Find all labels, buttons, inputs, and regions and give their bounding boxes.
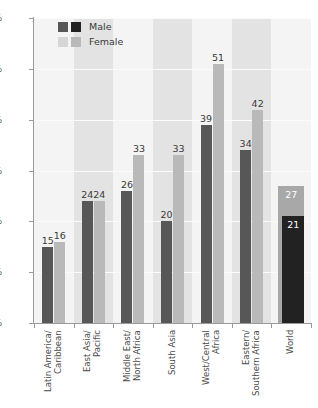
- female-bar: [213, 64, 224, 323]
- legend-label: Female: [89, 36, 123, 47]
- legend-swatch-secondary: [71, 37, 81, 47]
- y-axis-tick-mark: [29, 120, 33, 121]
- y-axis-tick-label: 10%: [0, 267, 2, 277]
- y-axis-tick-label: 50%: [0, 64, 2, 74]
- category-label-line: Southern Africa: [251, 330, 261, 404]
- y-axis-tick-mark: [29, 272, 33, 273]
- x-axis-category-label: South Asia: [168, 330, 178, 404]
- y-axis-tick-label: 20%: [0, 216, 2, 226]
- x-axis-tick-mark: [192, 324, 193, 328]
- male-value-label: 26: [121, 179, 133, 190]
- female-bar: [54, 242, 65, 323]
- gridline: [34, 120, 311, 121]
- legend-entry[interactable]: Male: [58, 20, 123, 33]
- female-bar: [173, 155, 184, 323]
- x-axis-category-label: West/CentralAfrica: [202, 330, 222, 404]
- x-axis-category-label: World: [286, 330, 296, 404]
- male-bar: [240, 150, 251, 323]
- male-bar: [121, 191, 132, 323]
- world-male-bar: [282, 216, 304, 323]
- legend-label: Male: [89, 21, 112, 32]
- x-axis-tick-mark: [153, 324, 154, 328]
- legend-swatch-primary: [58, 37, 68, 47]
- y-axis-tick-label: 30%: [0, 166, 2, 176]
- world-female-value-label: 27: [285, 189, 297, 200]
- x-axis-line: [33, 323, 312, 324]
- male-value-label: 20: [160, 209, 172, 220]
- male-bar: [161, 221, 172, 323]
- category-label-line: South Asia: [168, 330, 178, 404]
- x-axis-tick-mark: [232, 324, 233, 328]
- x-axis-category-label: Eastern/Southern Africa: [242, 330, 262, 404]
- bar-chart: 0%10%20%30%40%50%60% 1516242426332033395…: [0, 0, 318, 408]
- female-bar: [252, 110, 263, 324]
- chart-legend: MaleFemale: [58, 20, 123, 50]
- category-label-line: World: [286, 330, 296, 404]
- female-value-label: 51: [212, 52, 224, 63]
- x-axis-category-label: Latin America/Caribbean: [44, 330, 64, 404]
- y-axis-tick-mark: [29, 69, 33, 70]
- female-value-label: 42: [252, 98, 264, 109]
- female-bar: [133, 155, 144, 323]
- legend-entry[interactable]: Female: [58, 35, 123, 48]
- y-axis-tick-mark: [29, 18, 33, 19]
- y-axis-tick-mark: [29, 171, 33, 172]
- female-value-label: 24: [93, 189, 105, 200]
- male-value-label: 34: [240, 138, 252, 149]
- world-male-value-label: 21: [287, 219, 299, 230]
- legend-swatch-secondary: [71, 22, 81, 32]
- y-axis-tick-label: 60%: [0, 13, 2, 23]
- y-axis-tick-label: 0%: [0, 318, 2, 328]
- x-axis-category-label: Middle East/North Africa: [123, 330, 143, 404]
- male-value-label: 15: [42, 235, 54, 246]
- x-axis-tick-mark: [34, 324, 35, 328]
- y-axis-tick-mark: [29, 221, 33, 222]
- male-bar: [82, 201, 93, 323]
- category-label-line: Pacific: [93, 330, 103, 404]
- x-axis-tick-mark: [311, 324, 312, 328]
- x-axis-tick-mark: [271, 324, 272, 328]
- legend-swatch-primary: [58, 22, 68, 32]
- x-axis-tick-mark: [113, 324, 114, 328]
- female-value-label: 33: [172, 143, 184, 154]
- male-bar: [42, 247, 53, 323]
- gridline: [34, 18, 311, 19]
- female-bar: [94, 201, 105, 323]
- female-value-label: 33: [133, 143, 145, 154]
- gridline: [34, 69, 311, 70]
- female-value-label: 16: [54, 230, 66, 241]
- male-bar: [201, 125, 212, 323]
- category-label-line: Caribbean: [53, 330, 63, 404]
- male-value-label: 24: [81, 189, 93, 200]
- x-axis-category-label: East Asia/Pacific: [83, 330, 103, 404]
- male-value-label: 39: [200, 113, 212, 124]
- x-axis-tick-mark: [74, 324, 75, 328]
- category-label-line: North Africa: [132, 330, 142, 404]
- category-label-line: Africa: [212, 330, 222, 404]
- y-axis-tick-label: 40%: [0, 115, 2, 125]
- y-axis-tick-mark: [29, 323, 33, 324]
